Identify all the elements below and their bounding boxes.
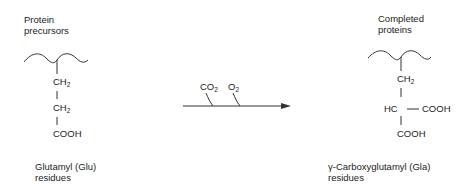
left-caption: Glutamyl (Glu) residues [35, 161, 96, 183]
o2-hook [233, 93, 240, 106]
right-title: Completed proteins [378, 13, 424, 35]
right-group-ch2: CH2 [397, 73, 414, 84]
left-group-ch2-2: CH2 [53, 102, 70, 113]
co2-hook [206, 93, 213, 106]
reactant-co2: CO2 [200, 81, 218, 92]
left-backbone-wave [24, 54, 88, 63]
left-group-ch2-1: CH2 [53, 76, 70, 87]
reactant-o2: O2 [228, 81, 239, 92]
right-group-hc: HC [384, 103, 398, 114]
right-caption: γ-Carboxyglutamyl (Gla) residues [328, 161, 430, 183]
left-group-cooh: COOH [53, 128, 82, 139]
right-group-side-cooh: COOH [422, 103, 451, 114]
left-title: Protein precursors [24, 14, 69, 36]
right-group-cooh: COOH [397, 128, 426, 139]
arrow-head-icon [281, 103, 291, 109]
right-backbone-wave [368, 51, 431, 60]
